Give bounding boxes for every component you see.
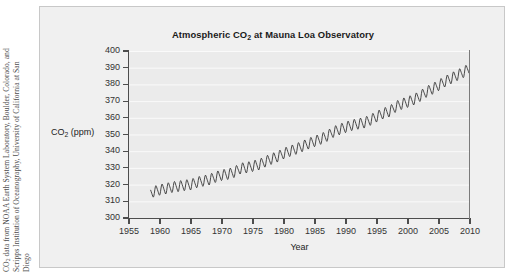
y-tick-mark [123, 184, 128, 185]
y-tick-label: 340 [90, 145, 120, 155]
y-tick-label: 350 [90, 129, 120, 139]
x-axis-line [128, 218, 471, 219]
y-tick-mark [123, 134, 128, 135]
y-tick-label: 370 [90, 95, 120, 105]
co2-line-chart [129, 51, 470, 218]
y-tick-mark [123, 217, 128, 218]
x-tick-mark [190, 219, 191, 224]
chart-panel: Atmospheric CO2 at Mauna Loa Observatory… [39, 6, 505, 268]
y-tick-mark [123, 84, 128, 85]
data-source-credit: CO2 data from NOAA Earth System Laborato… [0, 0, 36, 274]
y-tick-label: 330 [90, 162, 120, 172]
x-tick-mark [283, 219, 284, 224]
y-tick-label: 390 [90, 62, 120, 72]
y-tick-label: 310 [90, 195, 120, 205]
x-tick-mark [159, 219, 160, 224]
x-tick-mark [221, 219, 222, 224]
plot-area [129, 51, 470, 218]
figure-container: CO2 data from NOAA Earth System Laborato… [0, 0, 511, 274]
y-tick-mark [123, 117, 128, 118]
credit-line-2: Scripps Institution of Oceanography, Uni… [13, 61, 21, 272]
credit-line-3: Diego [23, 253, 31, 272]
x-tick-mark [345, 219, 346, 224]
y-tick-mark [123, 67, 128, 68]
right-spine [469, 50, 470, 219]
y-tick-mark [123, 101, 128, 102]
y-tick-label: 320 [90, 179, 120, 189]
x-tick-mark [438, 219, 439, 224]
x-tick-label: 2010 [450, 226, 490, 236]
x-tick-mark [469, 219, 470, 224]
y-tick-mark [123, 151, 128, 152]
credit-line-1: CO2 data from NOAA Earth System Laborato… [3, 48, 11, 272]
gridlines [129, 52, 470, 202]
y-tick-label: 300 [90, 212, 120, 222]
y-tick-label: 360 [90, 112, 120, 122]
chart-title: Atmospheric CO2 at Mauna Loa Observatory [40, 29, 506, 40]
x-tick-mark [376, 219, 377, 224]
x-tick-mark [314, 219, 315, 224]
y-tick-mark [123, 167, 128, 168]
x-tick-mark [407, 219, 408, 224]
x-tick-mark [128, 219, 129, 224]
y-tick-mark [123, 50, 128, 51]
y-tick-mark [123, 201, 128, 202]
x-tick-mark [252, 219, 253, 224]
x-axis-title: Year [129, 242, 470, 252]
y-axis-title: CO2 (ppm) [51, 127, 94, 137]
y-axis-line [128, 50, 129, 219]
y-tick-label: 380 [90, 78, 120, 88]
y-tick-label: 400 [90, 45, 120, 55]
